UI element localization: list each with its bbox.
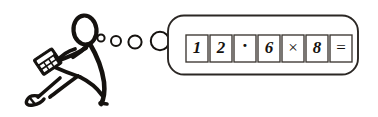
- expression-cell-glyph: 6: [265, 38, 274, 57]
- figure-seat-contact: [100, 103, 107, 104]
- expression-cell-7: =: [330, 35, 352, 62]
- expression-cell-6: 8: [306, 35, 328, 62]
- expression-cell-5: ×: [282, 35, 304, 62]
- expression-cell-glyph: ×: [288, 38, 298, 57]
- thought-dot-4: [151, 32, 169, 50]
- scene-drawing: Seated stick figure using a calculator w…: [0, 0, 378, 117]
- expression-cell-glyph: 1: [193, 38, 202, 57]
- illustration-canvas: Seated stick figure using a calculator w…: [0, 0, 378, 117]
- expression-cells: 1 2 · 6 ×: [186, 35, 352, 62]
- expression-cell-2: 2: [210, 35, 232, 62]
- expression-cell-glyph: 2: [216, 38, 226, 57]
- expression-cell-glyph: ·: [242, 35, 248, 56]
- expression-cell-1: 1: [186, 35, 208, 62]
- thought-dot-1: [97, 34, 104, 41]
- thought-dot-2: [111, 36, 121, 46]
- thought-bubble: 1 2 · 6 ×: [168, 16, 358, 75]
- expression-cell-glyph: 8: [313, 38, 322, 57]
- thought-dot-3: [128, 35, 141, 48]
- expression-cell-4: 6: [258, 35, 280, 62]
- expression-cell-3: ·: [234, 35, 256, 62]
- expression-cell-glyph: =: [336, 38, 346, 57]
